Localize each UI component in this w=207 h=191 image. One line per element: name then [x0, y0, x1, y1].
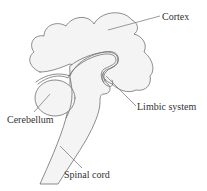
- spinal-cord-label: Spinal cord: [64, 170, 110, 180]
- brain-diagram: [0, 0, 207, 191]
- limbic-system-label: Limbic system: [137, 102, 196, 112]
- cortex-label: Cortex: [162, 12, 189, 22]
- cerebellum-label: Cerebellum: [7, 115, 54, 125]
